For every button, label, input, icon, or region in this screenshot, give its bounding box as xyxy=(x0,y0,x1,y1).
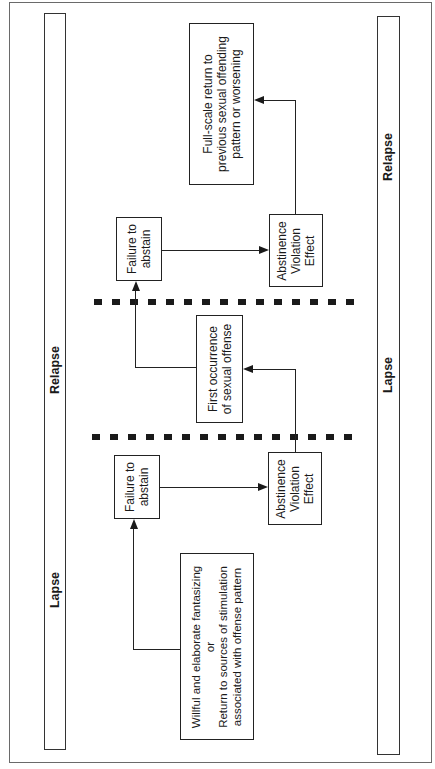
node-first-occurrence: First occurrence of sexual offense xyxy=(196,315,243,423)
node-ave-2-line2: Violation xyxy=(289,221,303,280)
node-ave-2-line3: Effect xyxy=(303,221,317,280)
edge-failure1-to-ave1 xyxy=(160,487,260,488)
node-ave-1-line2: Violation xyxy=(288,459,302,518)
edge-ave2-to-fullscale xyxy=(295,100,296,215)
node-trigger-line2: or xyxy=(204,565,218,727)
node-abstinence-violation-effect-2: Abstinence Violation Effect xyxy=(269,214,323,287)
edge-failure2-to-ave2 xyxy=(162,250,261,251)
node-first-line2: of sexual offense xyxy=(220,324,234,415)
edge-trigger-to-failure1 xyxy=(133,649,181,650)
edge-ave1-to-first xyxy=(295,369,296,453)
left-band-label-relapse: Relapse xyxy=(48,346,62,394)
node-failure-to-abstain-2: Failure to abstain xyxy=(116,217,162,281)
node-trigger-line1: Willful and elaborate fantasizing xyxy=(190,565,204,727)
left-band-label-lapse: Lapse xyxy=(48,572,62,608)
node-failure-1-line2: abstain xyxy=(137,462,151,512)
arrowhead-up-icon xyxy=(130,519,138,529)
edge-first-to-failure2 xyxy=(135,367,196,368)
node-ave-2-line1: Abstinence xyxy=(275,221,289,280)
node-ave-1-line3: Effect xyxy=(302,459,316,518)
node-full-scale-return: Full-scale return to previous sexual off… xyxy=(189,23,254,185)
node-failure-1-line1: Failure to xyxy=(123,462,137,512)
node-trigger-line4: associated with offense pattern xyxy=(231,565,245,727)
edge-ave2-to-fullscale-horizontal xyxy=(264,100,296,101)
phase-divider-lower xyxy=(92,434,354,440)
right-band-label-relapse: Relapse xyxy=(381,133,395,181)
node-trigger-line3: Return to sources of stimulation xyxy=(217,565,231,727)
arrowhead-right-icon xyxy=(258,483,268,491)
arrowhead-right-icon xyxy=(259,246,269,254)
right-band-label-lapse: Lapse xyxy=(381,357,395,393)
node-ave-1-line1: Abstinence xyxy=(274,459,288,518)
node-failure-2-line2: abstain xyxy=(139,224,153,274)
node-first-line1: First occurrence xyxy=(206,324,220,415)
edge-trigger-to-failure1-vertical xyxy=(133,529,134,650)
node-full-line1: Full-scale return to xyxy=(201,36,215,172)
node-failure-to-abstain-1: Failure to abstain xyxy=(114,455,160,519)
node-failure-2-line1: Failure to xyxy=(125,224,139,274)
arrowhead-up-icon xyxy=(132,281,140,291)
node-abstinence-violation-effect-1: Abstinence Violation Effect xyxy=(268,452,322,525)
edge-first-to-failure2-vertical xyxy=(135,291,136,368)
arrowhead-left-icon xyxy=(243,365,253,373)
node-trigger: Willful and elaborate fantasizing or Ret… xyxy=(180,553,254,740)
arrowhead-left-icon xyxy=(254,96,264,104)
edge-ave1-to-first-horizontal xyxy=(253,369,296,370)
phase-divider-upper xyxy=(94,299,354,305)
node-full-line2: previous sexual offending xyxy=(215,36,229,172)
node-full-line3: pattern or worsening xyxy=(229,36,243,172)
